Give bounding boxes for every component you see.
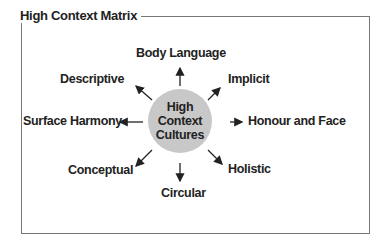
center-line-3: Cultures <box>156 128 204 142</box>
node-body-language: Body Language <box>136 46 226 60</box>
node-circular: Circular <box>161 186 206 200</box>
arrow-bottom-right <box>208 150 222 164</box>
node-conceptual: Conceptual <box>68 163 133 177</box>
arrow-top-left <box>136 86 152 100</box>
node-holistic: Holistic <box>228 162 271 176</box>
center-node: High Context Cultures <box>148 89 212 153</box>
node-honour-and-face: Honour and Face <box>248 114 346 128</box>
arrow-bottom-left <box>136 150 152 166</box>
node-surface-harmony: Surface Harmony <box>23 114 122 128</box>
arrow-top-right <box>208 88 220 100</box>
center-line-2: Context <box>158 114 202 128</box>
node-implicit: Implicit <box>228 72 269 86</box>
center-line-1: High <box>167 100 194 114</box>
node-descriptive: Descriptive <box>60 72 124 86</box>
